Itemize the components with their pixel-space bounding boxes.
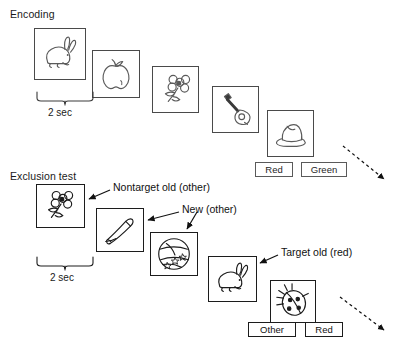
exclusion-test-duration-brace [37,257,93,270]
response-button-red-encoding[interactable]: Red [255,162,293,177]
encoding-stimulus-flower [152,66,199,113]
apple-icon [93,51,139,97]
annotation-nontarget-old-other: Nontarget old (other) [113,181,210,193]
test-stimulus-ball [150,232,198,276]
test-stimulus-ladybug [270,280,316,323]
exclusion-test-section-label: Exclusion test [10,170,76,182]
response-button-green-encoding[interactable]: Green [301,162,347,177]
flower-icon [37,185,84,227]
response-button-other-test[interactable]: Other [248,322,296,337]
exclusion-test-continuation-arrow [340,297,384,330]
test-stimulus-rabbit [208,256,257,302]
ball-icon [151,233,197,275]
rabbit-icon [35,29,85,79]
rabbit-icon [209,257,256,301]
encoding-continuation-arrow [343,146,384,179]
encoding-section-label: Encoding [10,8,55,20]
encoding-stimulus-rabbit [34,28,86,80]
encoding-duration-label: 2 sec [48,107,72,118]
ladybug-icon [271,281,315,322]
encoding-duration-brace [37,92,93,105]
annotation-new-other: New (other) [182,203,237,215]
experiment-procedure-figure: Encoding [0,0,398,351]
annotation-arrow-target-old-red [260,255,278,263]
hat-icon [268,111,313,156]
annotation-target-old-red: Target old (red) [281,246,352,258]
test-stimulus-flower [36,184,85,228]
encoding-stimulus-apple [92,50,140,98]
flower-icon [153,67,198,112]
response-button-red-test[interactable]: Red [305,322,343,337]
exclusion-test-duration-label: 2 sec [50,272,74,283]
encoding-stimulus-guitar [212,86,259,133]
annotation-arrow-new-other-left [148,212,179,220]
encoding-stimulus-hat [267,110,314,157]
test-stimulus-pen [96,208,144,252]
pen-icon [97,209,143,251]
annotation-arrow-nontarget-old [89,190,110,199]
guitar-icon [213,87,258,132]
